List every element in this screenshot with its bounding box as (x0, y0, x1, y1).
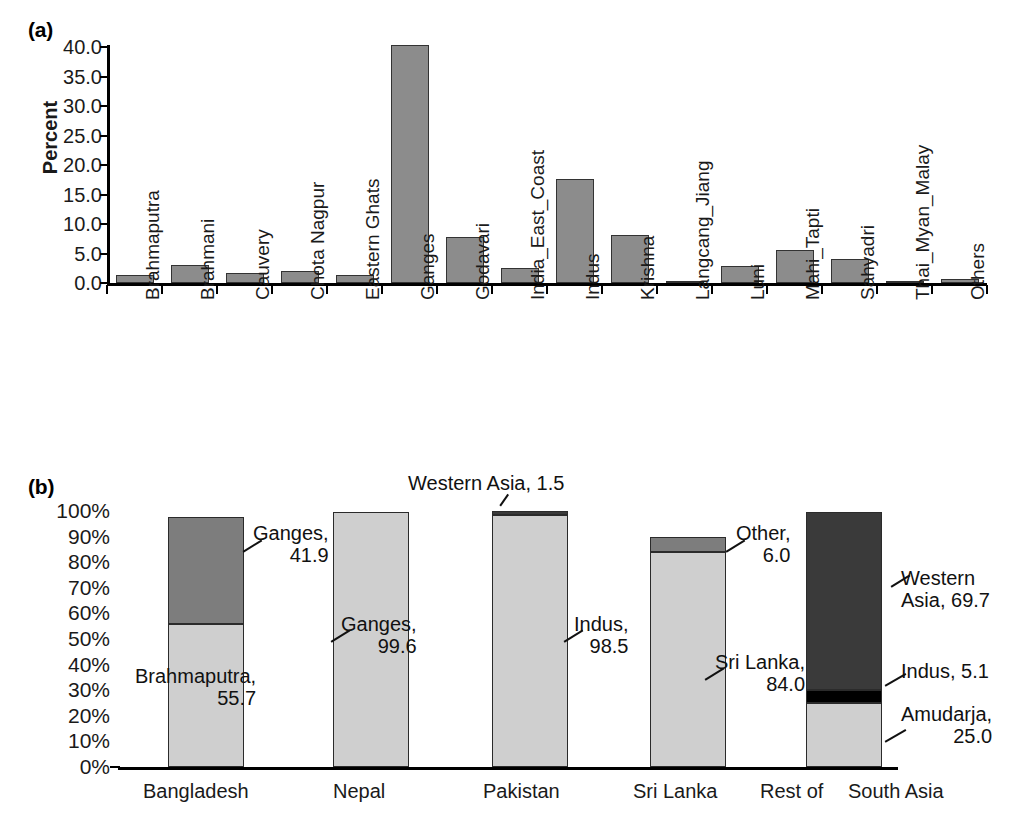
annotation-line-2: 99.6 (341, 635, 417, 657)
annotation-ganges-bangladesh: Ganges,41.9 (253, 522, 329, 567)
stacked-column-bangladesh (168, 511, 244, 767)
stacked-column-pakistan (492, 511, 568, 767)
figure-container: (a) Percent 40.035.030.025.020.015.010.0… (0, 0, 1014, 830)
stacked-column-sri-lanka (650, 511, 726, 767)
x-axis-label-a-indus: Indus (583, 254, 602, 300)
y-tick-label-b: 0% (18, 756, 110, 777)
annotation-line-1: Amudarja, (901, 703, 992, 725)
annotation-indus-rest: Indus, 5.1 (901, 660, 989, 682)
y-axis-line-a (107, 45, 110, 285)
annotation-srilanka-srilanka: Sri Lanka,84.0 (715, 651, 805, 696)
x-axis-label-a-luni: Luni (748, 264, 767, 300)
annotation-line-1: Indus, (574, 613, 628, 635)
x-axis-label-b-pakistan: Pakistan (483, 781, 560, 801)
x-axis-label-a-cauvery: Cauvery (253, 229, 272, 300)
y-tick-label-b: 80% (18, 551, 110, 572)
annotation-line-2: 41.9 (253, 544, 329, 566)
segment-indus (806, 690, 882, 703)
y-tick-label-b: 90% (18, 526, 110, 547)
annotation-indus-pakistan: Indus,98.5 (574, 613, 628, 658)
segment-western-asia (492, 511, 568, 515)
y-tick-label-a: 35.0 (22, 67, 102, 87)
x-axis-label-a-brahmaputra: Brahmaputra (143, 190, 162, 300)
y-tick-label-a: 15.0 (22, 185, 102, 205)
annotation-line-1: Western Asia, 1.5 (408, 472, 564, 494)
annotation-line-1: Ganges, (253, 522, 329, 544)
y-tick-label-a: 5.0 (22, 244, 102, 264)
y-tick-label-b: 30% (18, 679, 110, 700)
x-axis-label-a-chota-nagpur: Chota Nagpur (308, 182, 327, 300)
x-axis-label-b-south-asia: South Asia (848, 781, 944, 801)
x-tick-mark-a (106, 285, 108, 294)
y-tick-label-a: 25.0 (22, 126, 102, 146)
y-tick-label-a: 0.0 (22, 273, 102, 293)
x-axis-label-a-sahyadri: Sahyadri (858, 225, 877, 300)
y-tick-label-b: 100% (18, 500, 110, 521)
annotation-amudarja-rest: Amudarja,25.0 (901, 703, 992, 748)
annotation-line-2: 84.0 (715, 673, 805, 695)
x-axis-label-b-nepal: Nepal (333, 781, 385, 801)
x-axis-label-a-langcang-jiang: Langcang_Jiang (693, 161, 712, 300)
chart-panel-a: (a) Percent 40.035.030.025.020.015.010.0… (0, 0, 1014, 465)
segment-western-asia (806, 512, 882, 690)
y-tick-label-a: 10.0 (22, 214, 102, 234)
y-tick-label-b: 60% (18, 602, 110, 623)
y-tick-label-b: 50% (18, 628, 110, 649)
y-tick-label-b: 10% (18, 730, 110, 751)
stacked-column-rest-of-south-asia (806, 511, 882, 767)
annotation-line-2: 6.0 (736, 544, 790, 566)
x-axis-label-a-india-east-coast: India_East_Coast (528, 150, 547, 300)
x-axis-label-a-brahmani: Brahmani (198, 219, 217, 300)
annotation-western-asia-pakistan: Western Asia, 1.5 (408, 472, 564, 494)
x-axis-line-b (118, 767, 898, 770)
annotation-line-2: 98.5 (574, 635, 628, 657)
annotation-line-1: Sri Lanka, (715, 651, 805, 673)
annotation-line-1: Brahmaputra, (135, 665, 256, 687)
annotation-line-2: Asia, 69.7 (901, 589, 990, 611)
segment-indus (492, 515, 568, 767)
x-axis-label-a-others: Others (968, 243, 987, 300)
x-axis-label-a-godavari: Godavari (473, 223, 492, 300)
segment-ganges (168, 517, 244, 624)
x-axis-label-a-eastern-ghats: Eastern Ghats (363, 179, 382, 300)
leader-line-western-asia-pakistan (499, 494, 508, 506)
annotation-line-1: Western (901, 567, 990, 589)
annotation-ganges-nepal: Ganges,99.6 (341, 613, 417, 658)
y-tick-label-b: 70% (18, 577, 110, 598)
y-tick-label-a: 30.0 (22, 96, 102, 116)
x-axis-label-a-krishna: Krishna (638, 236, 657, 300)
segment-other (650, 537, 726, 552)
y-tick-label-a: 40.0 (22, 37, 102, 57)
x-axis-label-a-thai-myan-malay: Thai_Myan_Malay (913, 145, 932, 300)
annotation-western-asia-rest: WesternAsia, 69.7 (901, 567, 990, 612)
segment-amudarja (806, 703, 882, 767)
x-axis-label-a-mahi-tapti: Mahi_Tapti (803, 208, 822, 300)
chart-panel-b: (b) 100%90%80%70%60%50%40%30%20%10%0% Ga… (0, 465, 1014, 830)
panel-b-tag: (b) (28, 475, 54, 499)
x-axis-label-b-bangladesh: Bangladesh (143, 781, 249, 801)
x-axis-label-a-ganges: Ganges (418, 233, 437, 300)
annotation-brahmaputra-bangladesh: Brahmaputra,55.7 (135, 665, 256, 710)
y-tick-label-a: 20.0 (22, 155, 102, 175)
annotation-other-srilanka: Other,6.0 (736, 522, 790, 567)
annotation-line-1: Ganges, (341, 613, 417, 635)
x-axis-label-b-sri-lanka: Sri Lanka (633, 781, 718, 801)
y-tick-label-b: 40% (18, 654, 110, 675)
annotation-line-2: 25.0 (901, 725, 992, 747)
annotation-line-1: Indus, 5.1 (901, 660, 989, 682)
x-axis-label-b-rest-of: Rest of (760, 781, 823, 801)
y-tick-label-b: 20% (18, 705, 110, 726)
annotation-line-2: 55.7 (135, 687, 256, 709)
